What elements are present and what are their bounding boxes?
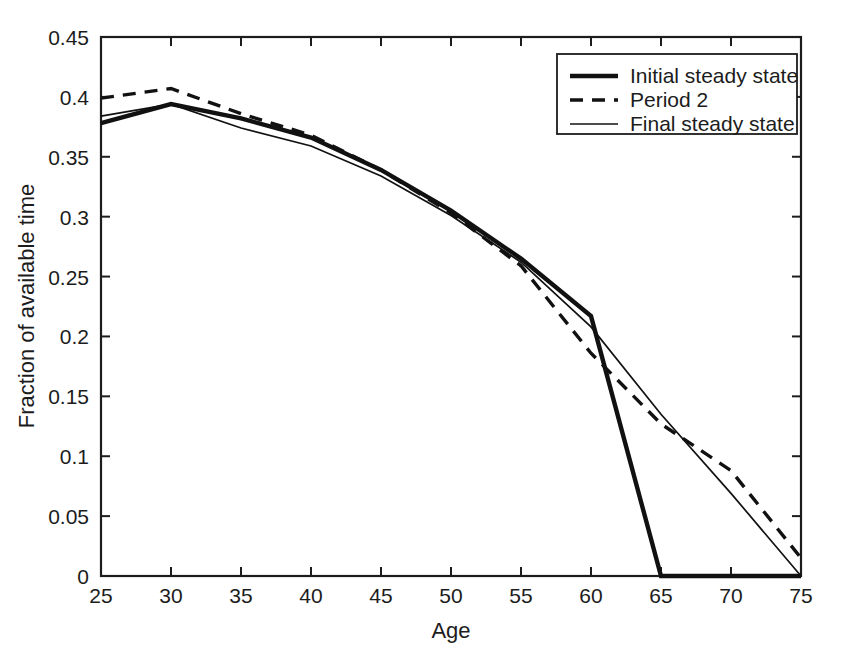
x-tick-label: 30 (159, 584, 182, 607)
legend-label-2: Final steady state (630, 112, 795, 135)
y-tick-label: 0.45 (48, 26, 89, 49)
y-axis-tick-labels: 00.050.10.150.20.250.30.350.40.45 (48, 26, 89, 588)
x-tick-label: 60 (579, 584, 602, 607)
x-tick-label: 75 (789, 584, 812, 607)
y-tick-label: 0.1 (60, 445, 89, 468)
y-tick-label: 0 (77, 565, 89, 588)
y-tick-label: 0.05 (48, 505, 89, 528)
legend-label-0: Initial steady state (630, 64, 798, 87)
x-axis-tick-labels: 2530354045505560657075 (89, 584, 812, 607)
x-tick-label: 35 (229, 584, 252, 607)
legend-label-1: Period 2 (630, 88, 708, 111)
series-line (101, 104, 801, 576)
series-line (101, 89, 801, 559)
y-tick-label: 0.25 (48, 266, 89, 289)
x-tick-label: 45 (369, 584, 392, 607)
x-tick-label: 25 (89, 584, 112, 607)
y-tick-label: 0.35 (48, 146, 89, 169)
chart-legend: Initial steady statePeriod 2Final steady… (557, 54, 798, 135)
series-line (101, 104, 801, 576)
y-tick-label: 0.3 (60, 206, 89, 229)
x-tick-label: 50 (439, 584, 462, 607)
chart-figure: 2530354045505560657075 00.050.10.150.20.… (0, 0, 844, 658)
y-tick-label: 0.2 (60, 325, 89, 348)
x-axis-title: Age (431, 618, 470, 643)
y-tick-label: 0.15 (48, 385, 89, 408)
x-tick-label: 40 (299, 584, 322, 607)
x-tick-label: 55 (509, 584, 532, 607)
y-tick-label: 0.4 (60, 86, 90, 109)
data-series-group (101, 89, 801, 577)
x-tick-label: 70 (719, 584, 742, 607)
x-tick-label: 65 (649, 584, 672, 607)
y-axis-title: Fraction of available time (14, 184, 39, 429)
line-chart: 2530354045505560657075 00.050.10.150.20.… (0, 0, 844, 658)
